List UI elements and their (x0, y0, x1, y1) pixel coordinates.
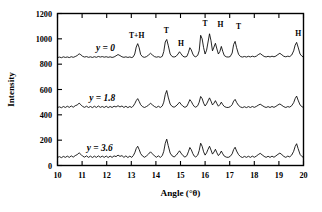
peak-annotation: H (178, 39, 184, 48)
x-tick-label: 11 (78, 171, 86, 180)
peak-annotation: H (217, 20, 223, 29)
x-tick-label: 20 (299, 171, 307, 180)
axis-tick-labels: 1011121314151617181920020040060080010001… (36, 10, 308, 180)
y-tick-label: 1200 (36, 10, 52, 19)
x-tick-label: 15 (176, 171, 184, 180)
x-tick-label: 10 (53, 171, 61, 180)
y-tick-label: 800 (40, 60, 52, 69)
x-tick-label: 17 (226, 171, 234, 180)
y-tick-label: 400 (40, 111, 52, 120)
x-tick-label: 18 (250, 171, 258, 180)
series-label: y = 0 (95, 43, 115, 53)
peak-annotation: T (203, 19, 208, 28)
chart-canvas: 1011121314151617181920020040060080010001… (0, 0, 322, 212)
y-tick-label: 0 (48, 162, 52, 171)
series-label: y = 3.6 (86, 143, 113, 153)
y-tick-label: 1000 (36, 35, 52, 44)
peak-annotation: T+H (129, 31, 144, 40)
x-axis-title: Angle (°θ) (161, 188, 201, 198)
x-tick-label: 19 (275, 171, 283, 180)
series-label: y = 1.8 (88, 93, 115, 103)
y-axis-title: Intensity (6, 72, 16, 107)
x-tick-label: 13 (127, 171, 135, 180)
peak-annotation: H (295, 29, 301, 38)
x-tick-label: 16 (201, 171, 209, 180)
peak-annotation: T (164, 26, 169, 35)
series-inline-labels: y = 0y = 1.8y = 3.6 (86, 43, 116, 153)
x-tick-label: 12 (103, 171, 111, 180)
xrd-diffractogram-figure: 1011121314151617181920020040060080010001… (0, 0, 322, 212)
peak-annotation: T (236, 22, 241, 31)
y-tick-label: 200 (40, 136, 52, 145)
y-tick-label: 600 (40, 86, 52, 95)
x-tick-label: 14 (152, 171, 160, 180)
